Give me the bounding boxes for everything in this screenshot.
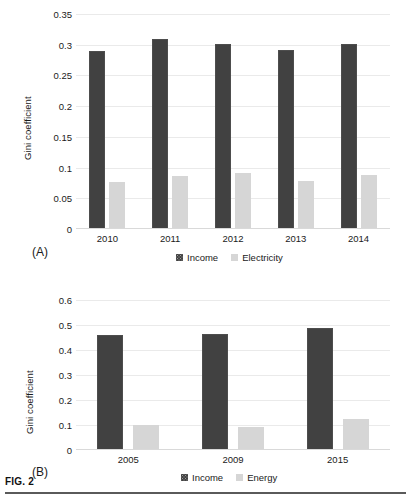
x-tick-label: 2012 [222, 233, 243, 244]
bars-layer-b [76, 300, 390, 450]
x-tick-label: 2009 [222, 454, 243, 465]
bar-income-2014 [341, 44, 357, 230]
x-axis-ticks-b: 200520092015 [76, 454, 390, 468]
legend-label: Energy [247, 472, 277, 483]
y-tick-label: 0.05 [54, 193, 73, 204]
x-tick-label: 2013 [285, 233, 306, 244]
x-tick-label: 2011 [160, 233, 180, 244]
y-tick-label: 0.25 [54, 70, 73, 81]
y-axis-ticks-a: 00.050.10.150.20.250.30.35 [38, 14, 72, 229]
bar-energy-2015 [343, 419, 369, 450]
legend-label: Income [187, 252, 218, 263]
bar-group [215, 14, 251, 229]
legend-swatch-icon [181, 474, 188, 481]
legend-b: IncomeEnergy [181, 472, 277, 483]
x-tick-label: 2015 [327, 454, 348, 465]
x-axis-ticks-a: 20102011201220132014 [76, 233, 390, 247]
legend-label: Electricity [242, 252, 283, 263]
bar-group [152, 14, 188, 229]
bar-electricity-2014 [361, 175, 377, 229]
bar-group [202, 300, 264, 450]
y-tick-label: 0.4 [59, 345, 72, 356]
bar-income-2011 [152, 39, 168, 229]
x-tick-label: 2010 [97, 233, 118, 244]
legend-swatch-icon [231, 254, 238, 261]
figure-divider [5, 492, 406, 494]
legend-item-energy[interactable]: Energy [236, 472, 277, 483]
y-tick-label: 0.15 [54, 131, 73, 142]
y-tick-label: 0.1 [59, 162, 72, 173]
x-axis-line-a [76, 228, 390, 229]
chart-panel-a: Gini coefficient 00.050.10.150.20.250.30… [0, 0, 411, 272]
bar-group [97, 300, 159, 450]
y-tick-label: 0 [67, 224, 72, 235]
bar-income-2010 [89, 51, 105, 229]
figure-2: Gini coefficient 00.050.10.150.20.250.30… [0, 0, 411, 500]
x-axis-line-b [76, 449, 390, 450]
y-axis-label-a: Gini coefficient [22, 96, 33, 160]
chart-panel-b: Gini coefficient 00.10.20.30.40.50.6 200… [0, 272, 411, 472]
y-tick-label: 0.5 [59, 320, 72, 331]
legend-item-income[interactable]: Income [176, 252, 218, 263]
y-tick-label: 0.6 [59, 295, 72, 306]
legend-swatch-icon [236, 474, 243, 481]
panel-letter-b: (B) [32, 465, 48, 479]
panel-letter-a: (A) [32, 245, 48, 259]
bar-energy-2009 [238, 427, 264, 450]
bar-group [307, 300, 369, 450]
bar-electricity-2013 [298, 181, 314, 229]
y-axis-label-b: Gini coefficient [24, 370, 35, 434]
bar-group [278, 14, 314, 229]
x-tick-label: 2014 [348, 233, 369, 244]
x-tick-label: 2005 [118, 454, 139, 465]
y-tick-label: 0.3 [59, 370, 72, 381]
plot-area-a [76, 14, 390, 229]
y-tick-label: 0.1 [59, 420, 72, 431]
bar-group [341, 14, 377, 229]
bar-income-2013 [278, 50, 294, 229]
bar-electricity-2012 [235, 173, 251, 230]
bar-electricity-2011 [172, 176, 188, 229]
y-tick-label: 0.3 [59, 39, 72, 50]
legend-swatch-icon [176, 254, 183, 261]
bar-electricity-2010 [109, 182, 125, 229]
bar-income-2015 [307, 328, 333, 450]
y-tick-label: 0.2 [59, 101, 72, 112]
y-tick-label: 0.2 [59, 395, 72, 406]
y-tick-label: 0 [67, 445, 72, 456]
y-axis-ticks-b: 00.10.20.30.40.50.6 [38, 300, 72, 450]
legend-a: IncomeElectricity [176, 252, 283, 263]
bar-group [89, 14, 125, 229]
bar-income-2009 [202, 334, 228, 450]
bar-income-2005 [97, 335, 123, 450]
plot-area-b [76, 300, 390, 450]
bars-layer-a [76, 14, 390, 229]
bar-income-2012 [215, 44, 231, 229]
bar-energy-2005 [133, 425, 159, 450]
figure-caption: FIG. 2 [5, 476, 34, 487]
legend-label: Income [192, 472, 223, 483]
y-tick-label: 0.35 [54, 9, 73, 20]
legend-item-income[interactable]: Income [181, 472, 223, 483]
legend-item-electricity[interactable]: Electricity [231, 252, 283, 263]
